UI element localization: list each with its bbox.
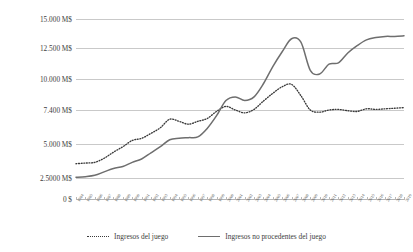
y-axis-tick-label: 5.000 M$ (6, 140, 72, 149)
legend-label-nongaming: Ingresos no procedentes del juego (225, 232, 326, 241)
chart-legend: Ingresos del juego Ingresos no procedent… (0, 228, 413, 244)
legend-dotted-swatch-icon (87, 236, 109, 237)
series-line-gaming (76, 84, 404, 164)
x-axis-ticks: 1984198519861987198819891990199119921993… (76, 200, 404, 230)
series-line-nongaming (76, 36, 404, 178)
y-axis-tick-label: 2.5000 M$ (6, 174, 72, 183)
y-axis-tick-label: 0 $ (6, 195, 72, 204)
plot-area: 15.000 M$12.500 M$10.000 M$7.400 M$5.000… (76, 10, 404, 200)
chart-figure: Ingresos en dólares de 2022 15.000 M$12.… (0, 0, 413, 252)
y-axis-tick-label: 12.500 M$ (6, 44, 72, 53)
series-layer (76, 10, 404, 200)
y-axis-tick-label: 15.000 M$ (6, 15, 72, 24)
y-axis-tick-label: 10.000 M$ (6, 75, 72, 84)
legend-item-gaming: Ingresos del juego (87, 232, 168, 241)
y-axis-tick-label: 7.400 M$ (6, 106, 72, 115)
x-axis-tick-label: 2019 (404, 193, 413, 203)
legend-item-nongaming: Ingresos no procedentes del juego (198, 232, 326, 241)
legend-label-gaming: Ingresos del juego (114, 232, 168, 241)
legend-solid-swatch-icon (198, 236, 220, 237)
